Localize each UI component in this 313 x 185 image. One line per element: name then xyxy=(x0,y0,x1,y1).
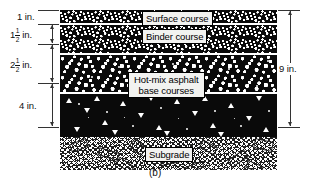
dimension-binder-denominator: 2 xyxy=(15,36,20,43)
aggregate-particle xyxy=(74,127,80,132)
dimension-base1-numerator: 1 xyxy=(15,58,20,66)
dimension-line-base-lower xyxy=(52,84,53,126)
label-surface-course: Surface course xyxy=(142,11,213,26)
extension-line-mid3 xyxy=(38,83,59,84)
label-subgrade: Subgrade xyxy=(145,147,193,162)
aggregate-particle xyxy=(186,128,188,130)
aggregate-particle xyxy=(132,125,134,127)
arrowhead-down-icon xyxy=(288,122,292,126)
aggregate-particle xyxy=(263,127,269,132)
aggregate-particle xyxy=(112,130,118,135)
aggregate-particle xyxy=(172,63,174,65)
arrowhead-up-icon xyxy=(50,45,54,49)
aggregate-particle xyxy=(210,123,216,128)
extension-line-total-bottom xyxy=(278,127,300,128)
aggregate-particle xyxy=(94,96,100,101)
dimension-base1-unit: in. xyxy=(22,59,32,70)
dimension-hma-base-upper: 212 in. xyxy=(10,58,32,73)
extension-line-top xyxy=(38,10,59,11)
aggregate-particle xyxy=(178,118,179,119)
dimension-binder-unit: in. xyxy=(22,29,32,40)
aggregate-particle xyxy=(228,68,230,70)
aggregate-particle xyxy=(156,125,162,130)
arrowhead-down-icon xyxy=(50,122,54,126)
aggregate-particle xyxy=(256,85,258,87)
dimension-hma-base-lower: 4 in. xyxy=(19,101,36,111)
aggregate-particle xyxy=(69,61,71,63)
aggregate-particle xyxy=(174,99,180,104)
aggregate-particle xyxy=(106,111,108,113)
aggregate-particle xyxy=(267,60,269,62)
aggregate-particle xyxy=(234,118,235,119)
extension-line-mid1 xyxy=(38,24,59,25)
aggregate-particle xyxy=(120,101,126,106)
aggregate-particle xyxy=(118,66,120,68)
aggregate-particle xyxy=(66,98,72,103)
arrowhead-up-icon xyxy=(50,84,54,88)
label-hma-base-line2: base courses xyxy=(139,85,194,96)
aggregate-particle xyxy=(160,107,162,109)
arrowhead-down-icon xyxy=(50,39,54,43)
aggregate-particle xyxy=(124,117,125,118)
extension-line-mid2 xyxy=(38,44,59,45)
arrowhead-down-icon xyxy=(50,78,54,82)
pavement-stack: Surface course Binder course Hot-mix asp… xyxy=(60,10,277,160)
aggregate-particle xyxy=(102,120,108,125)
dimension-surface-course: 1 in. xyxy=(17,12,34,22)
aggregate-particle xyxy=(91,76,93,78)
aggregate-particle xyxy=(84,108,90,113)
arrowhead-up-icon xyxy=(288,11,292,15)
layer-separator-line xyxy=(60,53,277,55)
layer-hma-base-lower xyxy=(60,94,277,137)
aggregate-particle xyxy=(192,111,198,116)
aggregate-particle xyxy=(78,103,80,105)
aggregate-particle xyxy=(240,125,242,127)
aggregate-particle xyxy=(268,110,270,112)
label-hma-base-courses: Hot-mix asphalt base courses xyxy=(128,72,205,98)
aggregate-particle xyxy=(228,103,234,108)
arrowhead-up-icon xyxy=(50,25,54,29)
figure-caption: (b) xyxy=(149,167,161,178)
label-hma-base-line1: Hot-mix asphalt xyxy=(134,74,199,85)
extension-line-bottom xyxy=(38,127,59,128)
aggregate-particle xyxy=(246,116,252,121)
label-binder-course: Binder course xyxy=(142,29,207,44)
pavement-cross-section-figure: Surface course Binder course Hot-mix asp… xyxy=(0,0,313,185)
aggregate-particle xyxy=(88,117,89,118)
aggregate-particle xyxy=(214,110,216,112)
dimension-binder-numerator: 1 xyxy=(15,28,20,36)
dimension-total-depth: 9 in. xyxy=(278,63,297,75)
aggregate-particle xyxy=(164,131,170,136)
dimension-line-base-upper xyxy=(52,45,53,82)
dimension-base1-denominator: 2 xyxy=(15,66,20,73)
dimension-binder-course: 112 in. xyxy=(10,28,32,43)
aggregate-particle xyxy=(256,96,262,101)
aggregate-particle xyxy=(138,113,144,118)
